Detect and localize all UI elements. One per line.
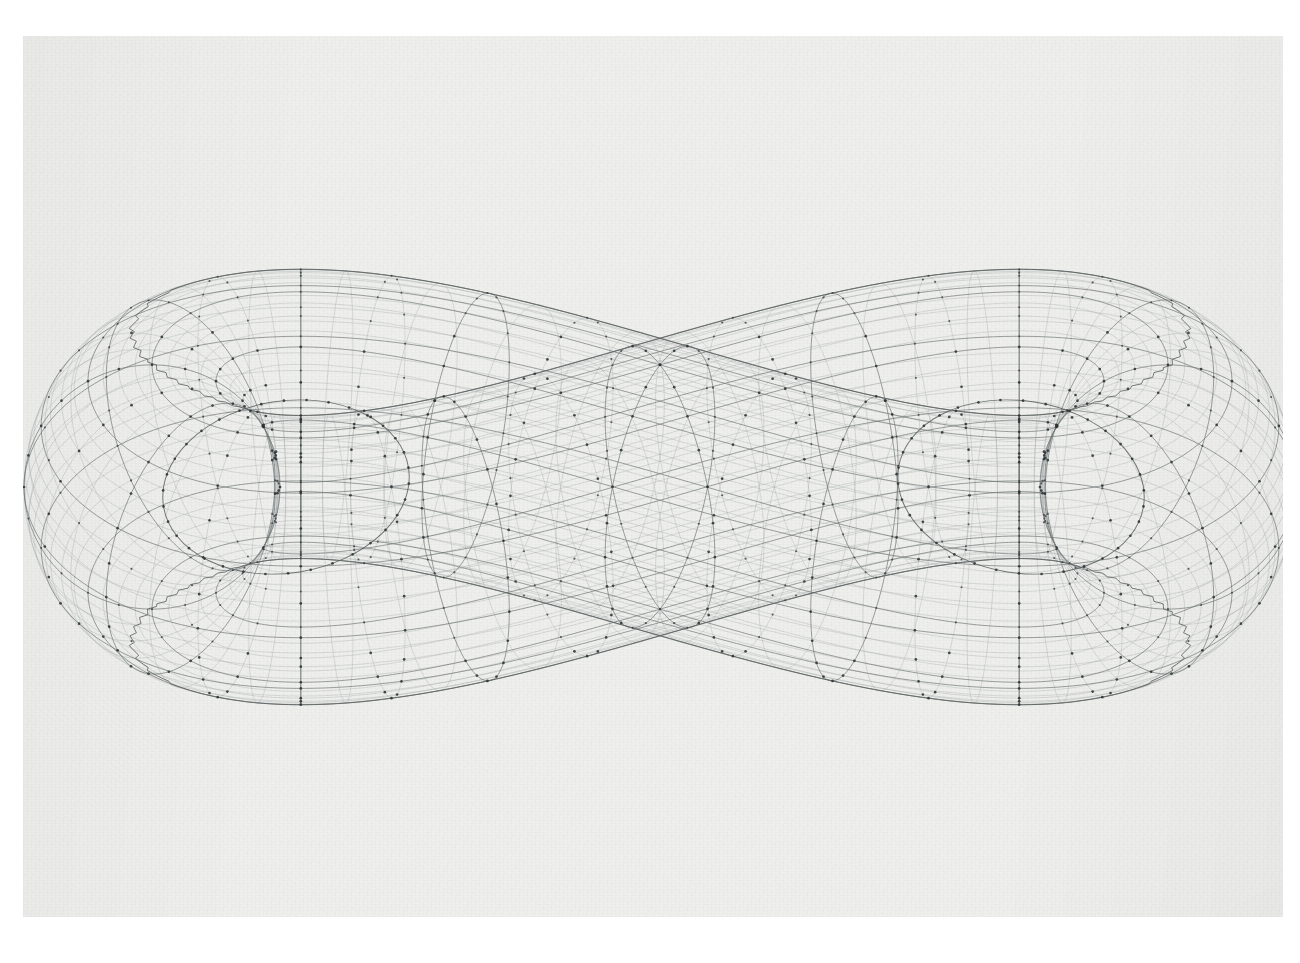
major-rib-lines (24, 269, 1283, 705)
scanned-page (23, 36, 1283, 917)
mesh-group (23, 268, 1283, 706)
wireframe-figure (23, 36, 1283, 917)
silhouette-lines (129, 269, 1190, 704)
